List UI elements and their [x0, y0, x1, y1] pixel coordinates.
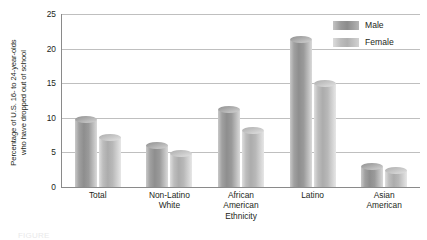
bar-body [99, 137, 121, 187]
bar-male-1 [146, 145, 168, 187]
gridline-10 [62, 118, 420, 119]
bar-body [146, 145, 168, 187]
bar-top-ellipse [290, 36, 312, 43]
bar-top-ellipse [314, 80, 336, 87]
legend-item-male: Male [333, 18, 425, 33]
bar-body [314, 83, 336, 187]
x-axis-title: Ethnicity [62, 211, 420, 221]
bar-body [290, 40, 312, 187]
x-tick-label-2: African American [205, 190, 277, 210]
legend-label-female: Female [365, 38, 394, 47]
bar-chart: Percentage of U.S. 16- to 24-year-olds w… [0, 0, 427, 240]
legend-label-male: Male [365, 21, 384, 30]
bar-body [218, 110, 240, 188]
bar-top-ellipse [99, 134, 121, 141]
legend-swatch-female-icon [333, 38, 359, 47]
y-axis-tick-labels: 0510152025 [22, 14, 56, 187]
bar-female-4 [385, 170, 407, 187]
bar-female-3 [314, 83, 336, 187]
bar-body [75, 120, 97, 187]
bar-body [170, 154, 192, 187]
y-tick-label-5: 5 [26, 148, 56, 156]
y-tick-label-10: 10 [26, 114, 56, 122]
bar-top-ellipse [218, 106, 240, 113]
bar-body [242, 131, 264, 187]
x-tick-label-1: Non-Latino White [134, 190, 206, 210]
chart-legend: Male Female [333, 18, 425, 52]
y-tick-label-15: 15 [26, 79, 56, 87]
legend-swatch-male-icon [333, 21, 359, 30]
figure-caption: FIGURE [18, 231, 49, 240]
bar-female-2 [242, 131, 264, 187]
gridline-15 [62, 83, 420, 84]
x-tick-label-4: Asian American [348, 190, 420, 210]
bar-male-2 [218, 110, 240, 188]
gridline-0 [62, 187, 420, 188]
bar-male-3 [290, 40, 312, 187]
gridline-25 [62, 14, 420, 15]
bar-female-1 [170, 154, 192, 187]
y-tick-label-0: 0 [26, 183, 56, 191]
legend-item-female: Female [333, 35, 425, 50]
bar-male-4 [361, 167, 383, 187]
bar-male-0 [75, 120, 97, 187]
x-tick-label-3: Latino [277, 190, 349, 200]
bar-female-0 [99, 137, 121, 187]
y-tick-label-25: 25 [26, 10, 56, 18]
y-tick-label-20: 20 [26, 45, 56, 53]
x-tick-label-0: Total [62, 190, 134, 200]
bar-top-ellipse [385, 167, 407, 174]
